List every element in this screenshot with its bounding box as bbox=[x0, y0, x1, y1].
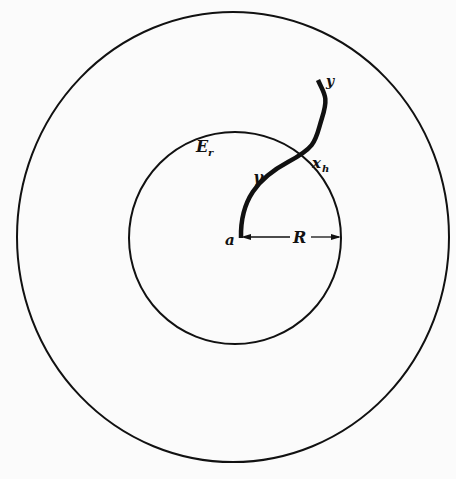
radius-arrow bbox=[241, 234, 341, 240]
label-a: a bbox=[225, 231, 235, 249]
label-x-h: x h bbox=[311, 154, 329, 174]
label-gamma: γ bbox=[253, 168, 265, 187]
inner-circle-E-r bbox=[129, 132, 341, 344]
label-E-r: E r bbox=[195, 137, 214, 158]
svg-text:x: x bbox=[311, 154, 322, 172]
label-y: y bbox=[325, 73, 335, 89]
label-R: R bbox=[292, 228, 306, 247]
svg-text:h: h bbox=[322, 163, 329, 174]
svg-text:r: r bbox=[208, 147, 214, 158]
diagram-canvas: a R γ y x h E r bbox=[0, 0, 456, 479]
svg-text:E: E bbox=[195, 137, 209, 156]
